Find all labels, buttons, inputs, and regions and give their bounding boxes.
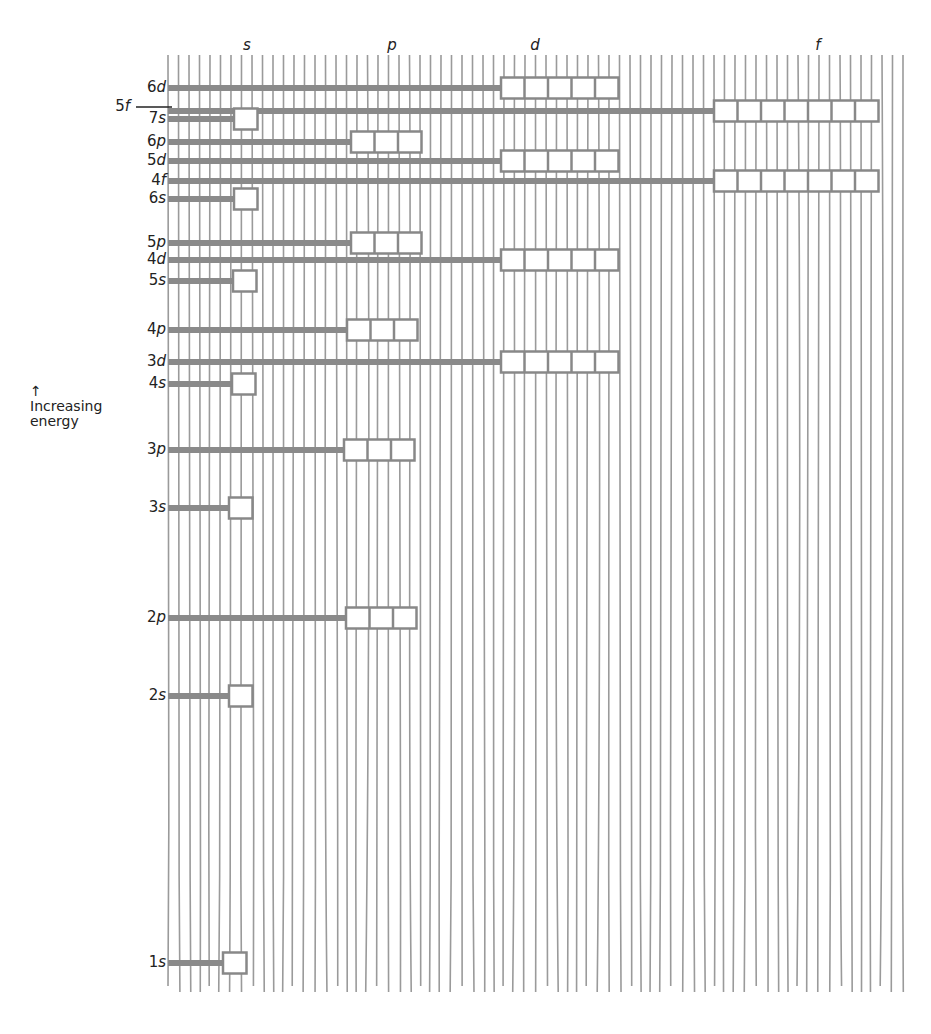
energy-bar xyxy=(168,257,501,263)
energy-level-3d xyxy=(168,352,619,373)
level-label-1s: 1s xyxy=(126,953,166,971)
axis-label-line1: Increasing xyxy=(30,399,102,414)
level-label-5s: 5s xyxy=(126,271,166,289)
column-header-d: d xyxy=(530,36,540,54)
level-label-2p: 2p xyxy=(126,608,166,626)
energy-level-3s xyxy=(168,498,253,519)
energy-bar xyxy=(168,278,233,284)
column-header-f: f xyxy=(815,36,820,54)
column-header-s: s xyxy=(243,36,251,54)
energy-bar xyxy=(168,693,229,699)
energy-bar xyxy=(168,139,351,145)
energy-level-6d xyxy=(168,78,619,99)
level-label-6s: 6s xyxy=(126,189,166,207)
level-label-3p: 3p xyxy=(126,440,166,458)
energy-level-4s xyxy=(168,374,256,395)
energy-bar xyxy=(168,116,234,122)
level-label-6d: 6d xyxy=(126,78,166,96)
energy-bar xyxy=(168,327,347,333)
energy-bar xyxy=(168,615,346,621)
energy-bar xyxy=(168,381,232,387)
energy-bar xyxy=(168,505,229,511)
energy-level-2s xyxy=(168,686,253,707)
energy-bar xyxy=(168,240,351,246)
energy-bar xyxy=(168,196,234,202)
energy-level-5s xyxy=(168,271,257,292)
energy-axis-label: ↑ Increasing energy xyxy=(30,384,102,429)
energy-level-5p xyxy=(168,233,422,254)
energy-level-6p xyxy=(168,132,422,153)
level-label-5p: 5p xyxy=(126,233,166,251)
orbital-energy-diagram: spdf 6d5f7s6p5d4f6s5p4d5s4p3d4s3p3s2p2s1… xyxy=(0,0,931,1034)
level-label-4d: 4d xyxy=(126,250,166,268)
axis-label-line2: energy xyxy=(30,414,102,429)
energy-level-6s xyxy=(168,189,258,210)
level-label-4s: 4s xyxy=(126,374,166,392)
level-label-4p: 4p xyxy=(126,320,166,338)
energy-bar xyxy=(168,178,714,184)
level-label-2s: 2s xyxy=(126,686,166,704)
level-label-7s: 7s xyxy=(126,109,166,127)
level-label-3d: 3d xyxy=(126,352,166,370)
column-header-p: p xyxy=(387,36,397,54)
energy-level-4f xyxy=(168,171,879,192)
level-label-6p: 6p xyxy=(126,132,166,150)
level-label-4f: 4f xyxy=(126,171,166,189)
energy-bar xyxy=(168,85,501,91)
energy-bar xyxy=(168,447,344,453)
level-label-5f: 5f xyxy=(90,97,130,115)
energy-level-3p xyxy=(168,440,415,461)
background-grid-lines xyxy=(168,55,903,992)
level-label-3s: 3s xyxy=(126,498,166,516)
energy-level-5f xyxy=(168,101,879,122)
energy-bar xyxy=(168,359,501,365)
up-arrow-icon: ↑ xyxy=(30,384,102,399)
energy-bar xyxy=(168,960,223,966)
level-label-5d: 5d xyxy=(126,151,166,169)
energy-bar xyxy=(168,158,501,164)
